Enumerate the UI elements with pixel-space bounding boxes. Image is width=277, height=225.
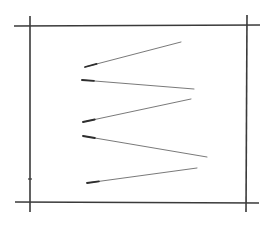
stroke-head-mark xyxy=(82,80,94,81)
stroke-5 xyxy=(87,168,197,183)
right-line xyxy=(246,15,247,212)
stroke-2 xyxy=(82,80,194,89)
stroke-head-mark xyxy=(83,120,95,122)
stroke-head-mark xyxy=(87,181,99,183)
stroke-head-mark xyxy=(83,136,95,138)
stroke-head-mark xyxy=(85,64,97,67)
stroke-1 xyxy=(85,42,181,67)
stroke-4 xyxy=(83,136,207,157)
frame xyxy=(14,15,260,212)
zigzag-strokes xyxy=(82,42,207,183)
top-line xyxy=(14,25,260,26)
sketch-canvas xyxy=(0,0,277,225)
bottom-line xyxy=(15,202,259,203)
stroke-3 xyxy=(83,99,191,122)
